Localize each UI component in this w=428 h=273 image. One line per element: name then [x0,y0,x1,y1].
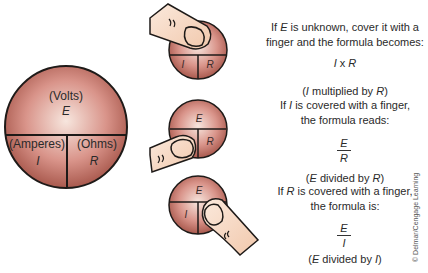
circle1-r-label: R [203,59,217,70]
circle3-i-label: I [179,209,193,220]
i-formula-denominator: R [337,151,351,165]
r-formula-fraction: E I [337,222,351,250]
current-symbol: I [28,154,48,168]
ohms-unit-label: (Ohms) [72,137,122,151]
circle3-e-label: E [192,185,206,196]
voltage-symbol: E [56,104,76,118]
e-instruction-line1: If E is unknown, cover it with a [265,21,425,34]
r-formula-numerator: E [337,222,351,236]
circle2-r-label: R [203,136,217,147]
finger-icon [150,4,211,49]
r-instruction-line1: If R is covered with a finger, [265,185,425,198]
r-instruction-line2: the formula is: [265,200,425,213]
main-ohms-circle [5,66,127,188]
i-instruction-line2: the formula reads: [265,114,425,127]
volts-unit-label: (Volts) [44,89,88,103]
e-formula-description: (I multiplied by R) [300,85,390,98]
i-formula-numerator: E [337,137,351,151]
circle2-e-label: E [192,113,206,124]
resistance-symbol: R [84,154,104,168]
i-formula-description: (E divided by R) [300,172,390,185]
e-instruction-line2: finger and the formula becomes: [265,36,425,49]
amperes-unit-label: (Amperes) [6,137,68,151]
r-formula-denominator: I [337,236,351,250]
finger-icon [202,199,258,255]
i-instruction-line1: If I is covered with a finger, [265,99,425,112]
circle1-i-label: I [176,59,190,70]
e-formula: I x R [325,57,365,70]
r-formula-description: (E divided by I) [300,253,390,266]
copyright-credit: © Delmar/Cengage Learning [412,173,419,262]
i-formula-fraction: E R [337,137,351,165]
